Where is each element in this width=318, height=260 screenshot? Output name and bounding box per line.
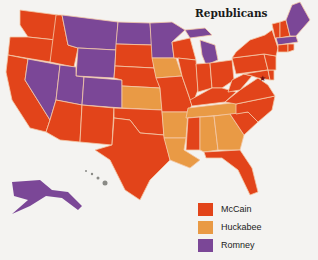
- legend-swatch: [198, 239, 213, 252]
- state-me[interactable]: [286, 2, 310, 36]
- state-wa[interactable]: [20, 10, 58, 40]
- state-ar[interactable]: [162, 112, 188, 138]
- state-ri[interactable]: [288, 44, 294, 52]
- state-mt[interactable]: [62, 15, 118, 50]
- state-ms[interactable]: [186, 117, 200, 150]
- state-wy[interactable]: [76, 48, 116, 78]
- state-hi[interactable]: [85, 170, 108, 186]
- state-ny[interactable]: [232, 30, 278, 58]
- legend-item-mccain: McCain: [198, 200, 262, 218]
- state-in[interactable]: [196, 63, 212, 92]
- state-ma[interactable]: [276, 36, 298, 45]
- state-fl[interactable]: [204, 150, 258, 195]
- legend-label: McCain: [221, 204, 252, 214]
- state-ks[interactable]: [122, 86, 162, 110]
- state-co[interactable]: [82, 77, 122, 108]
- legend-item-romney: Romney: [198, 236, 262, 254]
- legend-label: Huckabee: [221, 222, 262, 232]
- legend-swatch: [198, 221, 213, 234]
- legend-swatch: [198, 203, 213, 216]
- state-ak[interactable]: [12, 180, 82, 214]
- dc-star-icon: ★: [259, 74, 266, 83]
- legend-label: Romney: [221, 240, 255, 250]
- us-map: ★: [0, 0, 318, 260]
- state-wi[interactable]: [172, 38, 196, 60]
- state-sd[interactable]: [115, 44, 154, 68]
- state-nm[interactable]: [80, 105, 114, 145]
- state-ia[interactable]: [152, 58, 182, 78]
- state-ct[interactable]: [278, 44, 288, 52]
- legend-item-huckabee: Huckabee: [198, 218, 262, 236]
- legend: McCain Huckabee Romney: [198, 200, 262, 254]
- state-nd[interactable]: [116, 22, 152, 45]
